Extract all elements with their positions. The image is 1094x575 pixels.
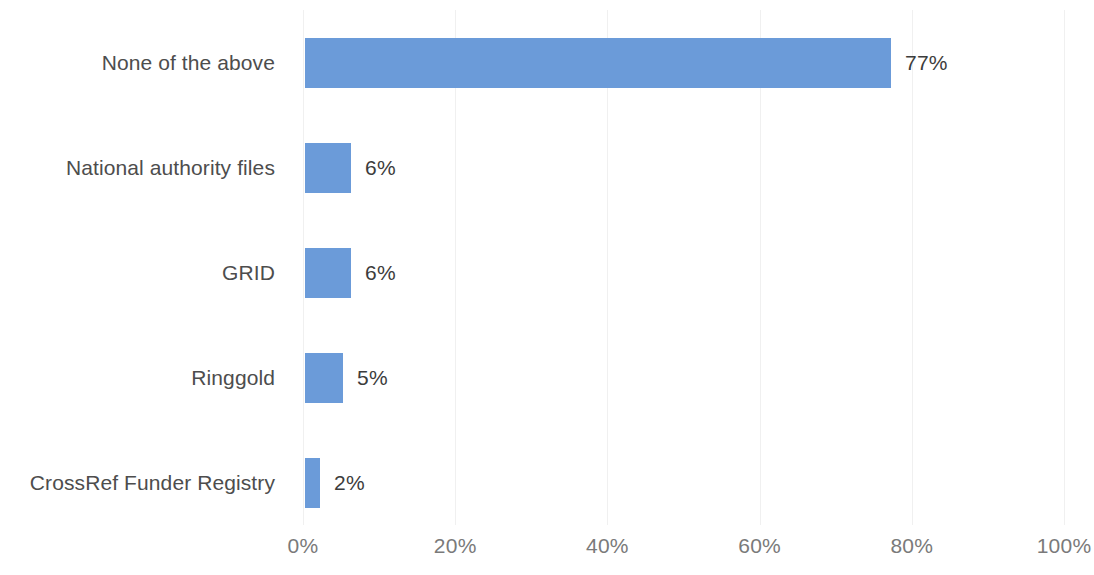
category-label-none-of-the-above: None of the above (102, 38, 275, 88)
x-tick-label-20: 20% (434, 534, 477, 558)
bar-row: 2% (303, 458, 1064, 508)
bar-crossref-funder-registry[interactable] (305, 458, 320, 508)
x-tick-label-80: 80% (890, 534, 933, 558)
bar-value-label: 6% (365, 261, 396, 285)
category-label-crossref-funder-registry: CrossRef Funder Registry (30, 458, 275, 508)
bar-grid[interactable] (305, 248, 351, 298)
category-label-ringgold: Ringgold (191, 353, 275, 403)
x-tick-label-60: 60% (738, 534, 781, 558)
category-label-grid: GRID (222, 248, 275, 298)
bar-value-label: 5% (357, 366, 388, 390)
gridline-100 (1064, 10, 1065, 525)
bar-value-label: 2% (334, 471, 365, 495)
x-axis: 0% 20% 40% 60% 80% 100% (303, 530, 1064, 570)
bar-none-of-the-above[interactable] (305, 38, 891, 88)
bar-ringgold[interactable] (305, 353, 343, 403)
bar-row: 77% (303, 38, 1064, 88)
bar-row: 5% (303, 353, 1064, 403)
bar-value-label: 77% (905, 51, 948, 75)
bar-row: 6% (303, 248, 1064, 298)
bar-chart: None of the above National authority fil… (0, 0, 1094, 575)
category-axis: None of the above National authority fil… (0, 10, 291, 525)
plot-area: 77% 6% 6% 5% 2% (303, 10, 1064, 525)
bar-national-authority-files[interactable] (305, 143, 351, 193)
x-tick-label-40: 40% (586, 534, 629, 558)
x-tick-label-100: 100% (1037, 534, 1092, 558)
bar-row: 6% (303, 143, 1064, 193)
x-tick-label-0: 0% (288, 534, 319, 558)
bar-value-label: 6% (365, 156, 396, 180)
category-label-national-authority-files: National authority files (66, 143, 275, 193)
